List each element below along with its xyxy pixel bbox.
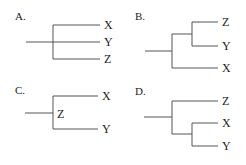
panel-a-tip-z: Z xyxy=(104,52,111,66)
panel-d-label: D. xyxy=(135,85,146,97)
panel-c-node-label-z: Z xyxy=(57,107,64,121)
panel-a-label: A. xyxy=(15,10,26,22)
panel-b-tip-x: X xyxy=(222,61,231,75)
panel-a-tip-x: X xyxy=(104,18,113,32)
panel-b-tip-y: Y xyxy=(222,39,231,53)
panel-c-tip-y: Y xyxy=(102,122,111,136)
panel-a-tip-y: Y xyxy=(104,35,113,49)
panel-b: B. Z Y X xyxy=(135,10,231,75)
panel-d-tip-x: X xyxy=(222,116,231,130)
panel-d: D. Z X Y xyxy=(135,85,231,153)
phylogenetic-trees-figure: A. X Y Z B. Z Y X C. Z X Y D. xyxy=(0,0,246,165)
panel-c-tip-x: X xyxy=(102,89,111,103)
panel-d-tip-y: Y xyxy=(222,139,231,153)
panel-d-tip-z: Z xyxy=(222,94,229,108)
panel-a: A. X Y Z xyxy=(15,10,113,66)
panel-b-label: B. xyxy=(135,10,145,22)
panel-b-tip-z: Z xyxy=(222,15,229,29)
panel-c: C. Z X Y xyxy=(15,84,111,136)
panel-c-label: C. xyxy=(15,84,25,96)
